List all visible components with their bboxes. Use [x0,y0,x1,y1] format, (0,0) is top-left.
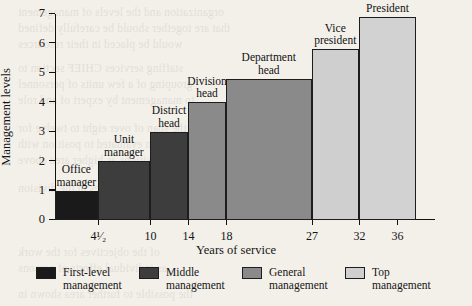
plot-area: 01234567 4¹⁄₂101418273236 OfficemanagerU… [55,14,435,220]
bar: Departmenthead [226,79,312,220]
x-tick-label: 36 [392,230,404,242]
legend-swatch [139,267,159,279]
y-tick-label: 5 [39,66,45,79]
y-tick: 4 [49,101,55,102]
x-tick: 14 [188,220,189,225]
x-tick: 27 [312,220,313,225]
legend-label: General management [269,266,328,293]
bar-label: Departmenthead [242,51,296,77]
x-tick: 4¹⁄₂ [98,220,99,225]
y-axis-title: Management levels [0,68,14,166]
y-tick-label: 1 [39,184,45,197]
legend-swatch [345,267,365,279]
chart-legend: First-level managementMiddle managementG… [36,266,448,293]
legend-swatch [36,267,56,279]
y-tick: 6 [49,42,55,43]
x-tick: 10 [150,220,151,225]
y-tick: 2 [49,160,55,161]
y-tick-label: 6 [39,37,45,50]
x-tick-label: 18 [221,230,233,242]
x-tick: 36 [397,220,398,225]
legend-label: Top management [372,266,431,293]
bar-label: Districthead [152,104,187,130]
x-tick-label: 4¹⁄₂ [90,230,106,242]
legend-item: Top management [345,266,448,293]
bar: Divisionhead [188,102,226,220]
y-tick: 5 [49,72,55,73]
y-tick-label: 2 [39,154,45,167]
y-tick-label: 7 [39,7,45,20]
x-tick-label: 32 [354,230,366,242]
bar-label: President [366,2,409,15]
x-tick: 32 [359,220,360,225]
legend-label: First-level management [63,266,122,293]
x-tick-label: 27 [306,230,318,242]
y-tick-label: 3 [39,125,45,138]
y-tick-label: 0 [39,213,45,226]
bar: President [359,17,416,220]
x-axis-title: Years of service [0,243,472,258]
x-tick-label: 10 [145,230,157,242]
x-tick: 18 [226,220,227,225]
bar-label: Vicepresident [314,22,356,48]
y-tick-label: 4 [39,95,45,108]
bar: Officemanager [55,191,98,220]
legend-label: Middle management [166,266,225,293]
legend-item: General management [242,266,345,293]
y-tick: 3 [49,131,55,132]
legend-item: First-level management [36,266,139,293]
y-axis-line [55,14,56,220]
bar: Unitmanager [98,161,150,220]
bar-label: Divisionhead [187,75,227,101]
x-tick-label: 14 [183,230,195,242]
y-tick: 7 [49,13,55,14]
bar-label: Officemanager [57,163,97,189]
legend-item: Middle management [139,266,242,293]
bar: Districthead [150,132,188,220]
bar: Vicepresident [312,49,360,220]
bar-chart: Management levels 01234567 4¹⁄₂101418273… [0,0,472,306]
bar-label: Unitmanager [104,133,144,159]
legend-swatch [242,267,262,279]
